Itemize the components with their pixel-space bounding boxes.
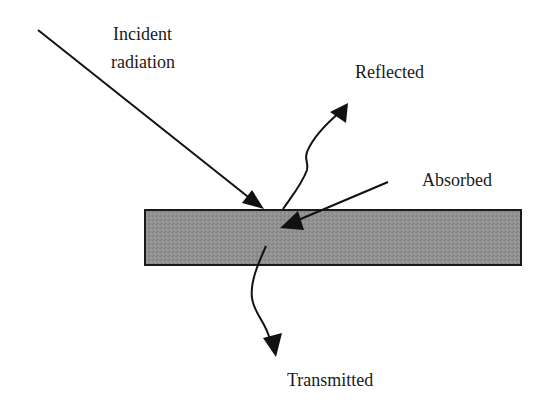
radiation-diagram xyxy=(0,0,550,408)
incident-label-line2: radiation xyxy=(111,53,175,71)
material-slab xyxy=(145,210,521,265)
reflected-label: Reflected xyxy=(355,63,424,81)
transmitted-label: Transmitted xyxy=(287,371,373,389)
absorbed-label: Absorbed xyxy=(422,171,492,189)
reflected-arrow xyxy=(283,103,348,209)
incident-label-line1: Incident xyxy=(113,25,172,43)
